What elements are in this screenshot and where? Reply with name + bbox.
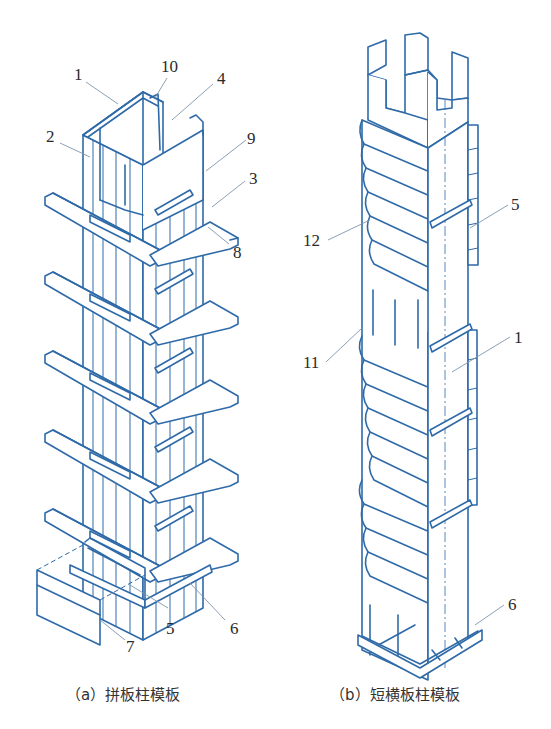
callout-a-3: 3: [249, 170, 258, 187]
callout-a-10: 10: [161, 58, 178, 75]
short-planks-face-b: [359, 120, 430, 680]
callout-b-12: 12: [303, 232, 320, 249]
caption-panel-b: （b）短横板柱模板: [330, 683, 460, 704]
callout-b-5: 5: [511, 196, 520, 213]
callout-a-5: 5: [166, 620, 175, 637]
callout-b-1: 1: [514, 329, 523, 346]
caption-panel-a: （a）拼板柱模板: [66, 683, 180, 704]
panel-a-board-column-formwork: [37, 78, 246, 645]
callout-a-8: 8: [233, 244, 242, 261]
callout-a-7: 7: [126, 638, 135, 655]
callout-a-4: 4: [217, 70, 226, 87]
right-face-b: [428, 100, 478, 670]
callout-a-9: 9: [247, 130, 256, 147]
callout-a-1: 1: [74, 66, 83, 83]
callout-b-6: 6: [508, 596, 517, 613]
formwork-figure: .ln { fill: none; stroke: #2f6aa8; strok…: [0, 0, 551, 729]
callout-b-11: 11: [303, 354, 319, 371]
callout-a-6: 6: [230, 620, 239, 637]
panel-b-short-plank-column-formwork: [326, 33, 510, 680]
callout-a-2: 2: [46, 128, 55, 145]
